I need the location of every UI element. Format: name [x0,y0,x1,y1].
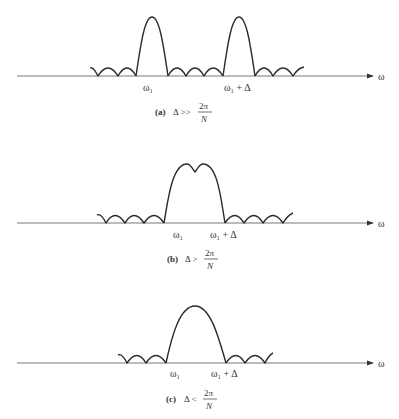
fraction-denominator: N [206,261,214,271]
single-main-lobe [166,306,226,363]
caption-condition: Δ < [184,394,197,404]
caption-tag: (a) [155,107,166,117]
main-lobe-w1 [136,17,168,76]
main-lobe-w1-plus-delta [223,17,255,76]
w1-label: ω₁ [173,229,183,240]
w1-plus-delta-label: ω₁ + Δ [211,368,238,379]
w1-plus-delta-label: ω₁ + Δ [210,229,237,240]
fraction-numerator: 2π [199,101,209,111]
fraction-denominator: N [200,114,208,124]
w1-plus-delta-label: ω₁ + Δ [224,82,251,93]
sidelobes-left [90,68,136,76]
w1-label: ω₁ [143,82,153,93]
fraction-numerator: 2π [204,388,214,398]
omega-axis-label: ω [378,218,385,229]
panel-a: ω ω₁ ω₁ + Δ (a) Δ >> 2π N [17,17,385,124]
panel-c: ω ω₁ ω₁ + Δ (c) Δ < 2π N [17,306,385,411]
caption-condition: Δ >> [173,107,191,117]
panel-b: ω ω₁ ω₁ + Δ (b) Δ > 2π N [17,164,385,271]
caption-tag: (b) [167,254,178,264]
sidelobes-right [226,353,273,363]
sidelobes-left [97,215,164,223]
fraction-denominator: N [205,401,213,411]
omega-axis-label: ω [378,71,385,82]
fraction-numerator: 2π [205,248,215,258]
omega-axis-label: ω [378,358,385,369]
sidelobes-right [255,67,304,76]
sidelobes-left [118,355,166,363]
caption-condition: Δ > [185,254,198,264]
merged-main-lobe [164,164,225,223]
w1-label: ω₁ [170,368,180,379]
spectral-resolution-diagram: ω ω₁ ω₁ + Δ (a) Δ >> 2π N ω ω₁ ω₁ + Δ (b… [0,0,399,419]
sidelobes-right [225,213,293,223]
caption-tag: (c) [166,394,176,404]
sidelobes-middle [168,68,223,76]
